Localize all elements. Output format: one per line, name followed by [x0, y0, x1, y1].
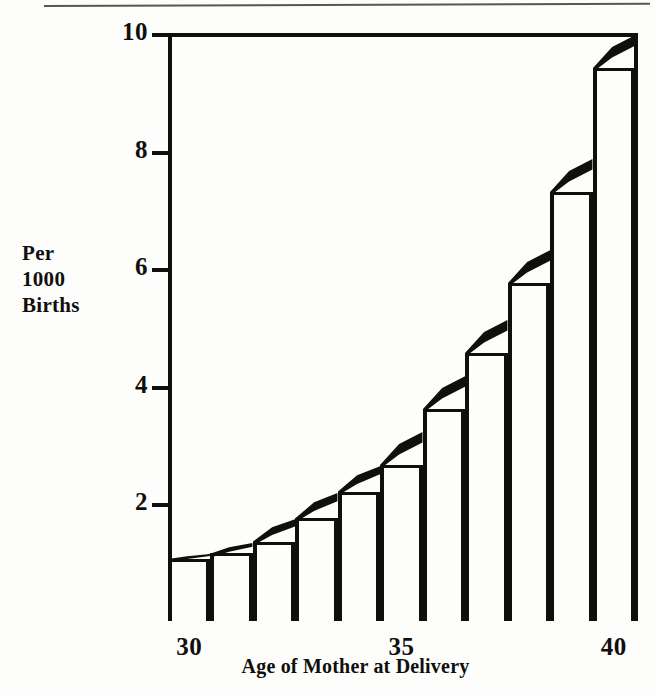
bar	[168, 559, 210, 621]
bar-top-wedge	[380, 431, 422, 469]
y-axis-line	[168, 33, 172, 621]
y-axis-title-line-2: 1000	[22, 266, 80, 292]
y-tick-label: 8	[135, 137, 148, 163]
bar	[295, 518, 337, 621]
x-axis-title-text: Age of Mother at Delivery	[242, 655, 470, 678]
bar-top-wedge	[593, 34, 635, 72]
bar-top-wedge	[295, 492, 337, 522]
y-tick-mark	[152, 386, 168, 390]
bar-top-wedge	[508, 249, 550, 287]
y-tick-mark	[152, 503, 168, 507]
y-axis-title-line-3: Births	[22, 292, 80, 318]
chart-figure: Per 1000 Births 108642 303540 Age of Mot…	[0, 0, 655, 697]
bar-top-wedge	[168, 553, 210, 563]
x-axis-title: Age of Mother at Delivery	[0, 655, 655, 678]
y-tick-mark	[152, 268, 168, 272]
plot-area: 108642 303540	[168, 33, 635, 621]
bar-top-wedge	[423, 375, 465, 413]
plot-top-border	[168, 33, 638, 37]
y-tick-label: 4	[135, 372, 148, 398]
bar	[338, 492, 380, 621]
y-tick-label: 2	[135, 489, 148, 515]
bar-top-wedge	[550, 158, 592, 196]
y-axis-title: Per 1000 Births	[22, 240, 80, 318]
bar-top-wedge	[210, 542, 252, 558]
bar	[465, 353, 507, 621]
bar	[380, 465, 422, 621]
page-rule-divider	[44, 3, 650, 7]
bar	[423, 409, 465, 621]
y-tick-mark	[152, 33, 168, 37]
bar	[593, 68, 635, 621]
bar-top-wedge	[338, 465, 380, 495]
bar	[508, 283, 550, 621]
y-tick-label: 6	[135, 254, 148, 280]
y-tick-mark	[152, 151, 168, 155]
bar	[550, 192, 592, 621]
y-axis-title-line-1: Per	[22, 240, 80, 266]
bar-top-wedge	[253, 518, 295, 546]
bar	[210, 553, 252, 621]
bar	[253, 542, 295, 621]
bar-top-wedge	[465, 319, 507, 357]
y-tick-label: 10	[122, 19, 148, 45]
